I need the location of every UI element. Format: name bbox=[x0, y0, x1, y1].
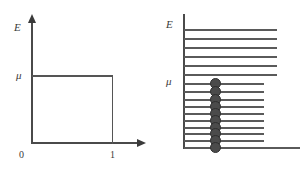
energy-level-stack bbox=[152, 0, 305, 171]
energy-level-line bbox=[184, 140, 264, 142]
energy-level-line bbox=[184, 133, 264, 135]
fermi-step-plot-panel: E μ 0 1 bbox=[0, 0, 152, 171]
left-y-axis-label: E bbox=[14, 22, 21, 33]
energy-level-line bbox=[184, 91, 264, 93]
left-y-axis bbox=[31, 22, 33, 144]
energy-level-line bbox=[184, 99, 264, 101]
energy-level-line bbox=[184, 83, 264, 85]
energy-level-ladder-panel: E μ bbox=[152, 0, 305, 171]
left-x-axis bbox=[31, 142, 139, 144]
left-x-tick-label-one: 1 bbox=[110, 150, 115, 160]
occupied-state-dot bbox=[210, 142, 221, 153]
left-mu-tick-label: μ bbox=[16, 70, 22, 81]
energy-level-line bbox=[184, 65, 277, 67]
step-top-segment bbox=[32, 75, 113, 77]
energy-level-line bbox=[184, 120, 264, 122]
energy-level-line bbox=[184, 147, 300, 149]
figure-container: E μ 0 1 E μ bbox=[0, 0, 305, 171]
left-x-axis-arrowhead bbox=[137, 139, 146, 147]
right-mu-label: μ bbox=[166, 76, 172, 87]
energy-level-line bbox=[184, 56, 277, 58]
energy-level-line bbox=[184, 127, 264, 129]
energy-level-line bbox=[184, 38, 277, 40]
right-y-axis-label: E bbox=[166, 19, 173, 30]
energy-level-line bbox=[184, 47, 277, 49]
energy-level-line bbox=[184, 106, 264, 108]
step-vertical-drop bbox=[112, 75, 114, 144]
energy-level-line bbox=[184, 29, 277, 31]
left-y-axis-arrowhead bbox=[28, 14, 36, 23]
energy-level-line bbox=[184, 113, 264, 115]
left-origin-label: 0 bbox=[19, 150, 24, 160]
energy-level-line bbox=[184, 74, 277, 76]
